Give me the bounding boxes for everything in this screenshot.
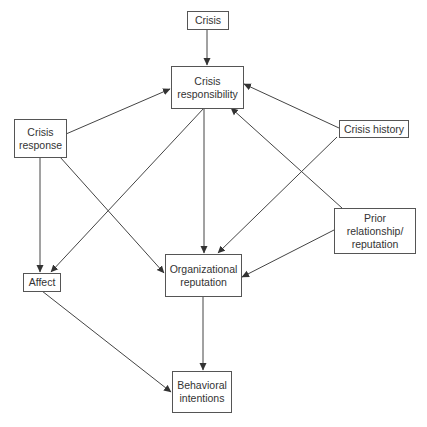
edge-prior-to-responsibility <box>231 108 342 208</box>
node-label: Crisis history <box>344 123 404 136</box>
node-organizational-reputation: Organizational reputation <box>165 254 242 297</box>
node-label: Affect <box>29 276 56 289</box>
edge-responsibility-to-affect <box>51 108 204 272</box>
node-crisis: Crisis <box>187 11 229 30</box>
node-behavioral-intentions: Behavioral intentions <box>172 371 232 413</box>
edge-response-to-responsibility <box>66 89 170 134</box>
node-label: Crisis <box>195 14 221 27</box>
node-affect: Affect <box>23 273 61 292</box>
edge-affect-to-behavioral <box>42 291 171 392</box>
edge-prior-to-reputation <box>242 230 334 277</box>
node-label: Behavioral intentions <box>177 379 227 405</box>
edge-history-to-responsibility <box>244 84 339 128</box>
node-label: Organizational reputation <box>170 263 238 289</box>
node-crisis-responsibility: Crisis responsibility <box>171 66 244 109</box>
edge-response-to-reputation <box>60 157 164 273</box>
node-label: Crisis responsibility <box>177 75 238 101</box>
edge-history-to-reputation <box>218 137 337 253</box>
node-crisis-history: Crisis history <box>339 120 409 138</box>
node-label: Crisis response <box>19 126 62 152</box>
node-label: Prior relationship/ reputation <box>347 212 404 251</box>
node-crisis-response: Crisis response <box>14 119 67 158</box>
node-prior-relationship: Prior relationship/ reputation <box>334 208 416 254</box>
